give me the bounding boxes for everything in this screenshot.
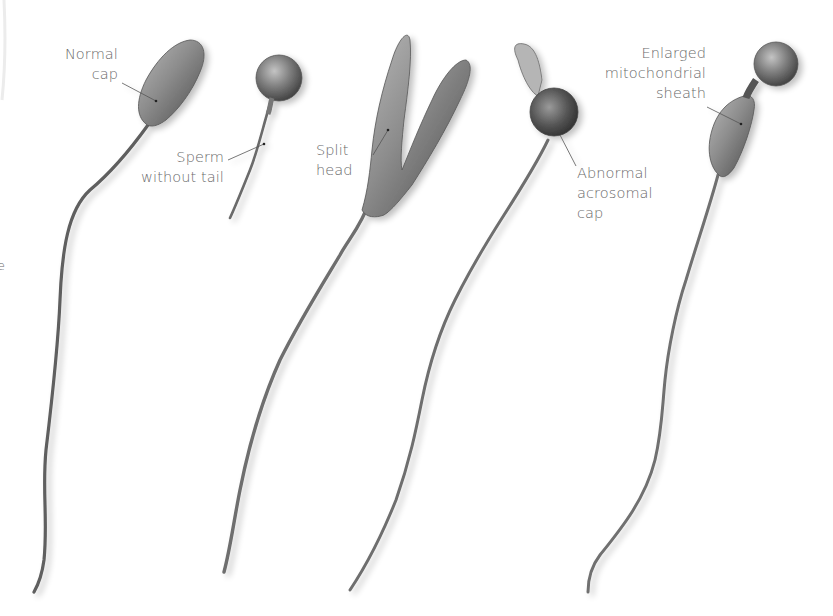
label-line: Normal (58, 44, 118, 64)
pointer-dot (263, 143, 266, 146)
label-sperm-without-tail: Sperm without tail (128, 147, 224, 187)
edge-artifact (2, 0, 5, 100)
pointer-dot (740, 123, 743, 126)
specimen-enlarged-mitochondrial-sheath (588, 42, 798, 592)
label-line: mitochondrial (588, 63, 706, 83)
head (754, 42, 798, 86)
label-line: Split (316, 140, 353, 160)
acrosomal-bulb (515, 44, 542, 96)
head (256, 55, 302, 101)
head (139, 40, 205, 126)
label-line: head (316, 160, 353, 180)
label-enlarged-mitochondrial-sheath: Enlarged mitochondrial sheath (588, 43, 706, 103)
label-split-head: Split head (316, 140, 353, 180)
label-line: acrosomal (577, 183, 653, 203)
label-line: cap (58, 64, 118, 84)
label-line: sheath (588, 83, 706, 103)
label-line: Enlarged (588, 43, 706, 63)
tail-stub (230, 104, 270, 218)
forked-head (362, 35, 470, 217)
specimen-split-head (224, 35, 470, 572)
label-normal-cap: Normal cap (58, 44, 118, 84)
tail (224, 200, 370, 572)
label-abnormal-acrosomal-cap: Abnormal acrosomal cap (577, 163, 653, 223)
specimen-illustrations (0, 0, 833, 616)
pointer-line (560, 135, 576, 166)
label-line: Sperm (128, 147, 224, 167)
head (530, 88, 578, 136)
tail (34, 125, 148, 592)
specimen-without-tail (228, 55, 302, 218)
neck (746, 80, 756, 98)
swollen-midpiece (709, 96, 754, 177)
label-line: Abnormal (577, 163, 653, 183)
edge-text-fragment: e (0, 256, 5, 276)
label-line: cap (577, 203, 653, 223)
neck (268, 98, 272, 114)
tail (588, 175, 718, 592)
pointer-dot (155, 100, 158, 103)
specimen-normal-cap (34, 40, 204, 592)
pointer-line (228, 144, 264, 160)
label-line: without tail (128, 167, 224, 187)
pointer-dot (387, 129, 390, 132)
sperm-abnormalities-figure: Normal cap Sperm without tail Split head… (0, 0, 833, 616)
